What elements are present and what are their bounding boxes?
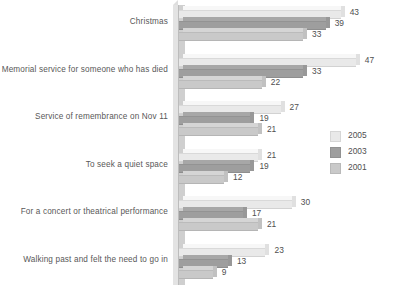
category-label: To seek a quiet space bbox=[0, 160, 168, 170]
legend-swatch-icon bbox=[330, 163, 341, 174]
legend-item[interactable]: 2005 bbox=[330, 128, 392, 144]
legend-item[interactable]: 2003 bbox=[330, 144, 392, 160]
bar-value-label: 13 bbox=[237, 256, 246, 267]
bar-value-label: 30 bbox=[301, 197, 310, 208]
bar bbox=[179, 28, 307, 37]
bar-end-cap bbox=[213, 266, 217, 277]
bar-front-face bbox=[179, 175, 224, 184]
bar bbox=[179, 244, 269, 253]
legend-label: 2003 bbox=[348, 144, 367, 159]
bar-end-cap bbox=[303, 28, 307, 39]
bar bbox=[179, 207, 247, 216]
bar-end-cap bbox=[303, 65, 307, 76]
bar-end-cap bbox=[228, 255, 232, 266]
bar bbox=[179, 6, 345, 15]
bar-front-face bbox=[179, 80, 262, 89]
bar-front-face bbox=[179, 222, 258, 231]
legend-swatch-icon bbox=[330, 147, 341, 158]
bar bbox=[179, 54, 360, 63]
category-label: For a concert or theatrical performance bbox=[0, 207, 168, 217]
bar-end-cap bbox=[281, 101, 285, 112]
bar-chart: ChristmasMemorial service for someone wh… bbox=[0, 0, 395, 291]
bar bbox=[179, 76, 266, 85]
bar bbox=[179, 123, 262, 132]
bar-value-label: 33 bbox=[312, 29, 321, 40]
bar bbox=[179, 171, 228, 180]
legend-item[interactable]: 2001 bbox=[330, 160, 392, 176]
bar-end-cap bbox=[292, 196, 296, 207]
bar-value-label: 21 bbox=[267, 150, 276, 161]
bar-value-label: 21 bbox=[267, 219, 276, 230]
bar-end-cap bbox=[258, 149, 262, 160]
category-label: Walking past and felt the need to go in bbox=[0, 255, 168, 265]
legend: 200520032001 bbox=[330, 128, 392, 176]
bar-end-cap bbox=[326, 17, 330, 28]
bar bbox=[179, 17, 330, 26]
bar-end-cap bbox=[250, 160, 254, 171]
bar-end-cap bbox=[243, 207, 247, 218]
bar-value-label: 23 bbox=[274, 245, 283, 256]
bar-end-cap bbox=[262, 76, 266, 87]
bar-value-label: 19 bbox=[259, 161, 268, 172]
bar-front-face bbox=[179, 32, 303, 41]
bar bbox=[179, 160, 254, 169]
bar-end-cap bbox=[258, 123, 262, 134]
axis-wall-foot bbox=[173, 279, 178, 285]
bar-front-face bbox=[179, 270, 213, 279]
bar-end-cap bbox=[341, 6, 345, 17]
bar-front-face bbox=[179, 127, 258, 136]
bar bbox=[179, 196, 296, 205]
bar-value-label: 47 bbox=[365, 55, 374, 66]
bar-end-cap bbox=[224, 171, 228, 182]
bar-value-label: 12 bbox=[233, 172, 242, 183]
bar-end-cap bbox=[356, 54, 360, 65]
bar bbox=[179, 255, 232, 264]
bar bbox=[179, 112, 254, 121]
bar bbox=[179, 266, 217, 275]
bar-value-label: 27 bbox=[290, 102, 299, 113]
legend-label: 2005 bbox=[348, 128, 367, 143]
bar bbox=[179, 218, 262, 227]
bar-end-cap bbox=[265, 244, 269, 255]
bar-value-label: 43 bbox=[350, 7, 359, 18]
bar-end-cap bbox=[258, 218, 262, 229]
bar-value-label: 39 bbox=[335, 18, 344, 29]
legend-swatch-icon bbox=[330, 131, 341, 142]
category-label: Christmas bbox=[0, 17, 168, 27]
category-label: Service of remembrance on Nov 11 bbox=[0, 112, 168, 122]
bar-value-label: 22 bbox=[271, 77, 280, 88]
bar bbox=[179, 101, 285, 110]
bar bbox=[179, 65, 307, 74]
legend-label: 2001 bbox=[348, 160, 367, 175]
bar-value-label: 9 bbox=[222, 267, 227, 278]
bar-value-label: 33 bbox=[312, 66, 321, 77]
category-axis-labels: ChristmasMemorial service for someone wh… bbox=[0, 0, 172, 291]
category-label: Memorial service for someone who has die… bbox=[0, 65, 168, 75]
bar bbox=[179, 149, 262, 158]
bar-value-label: 21 bbox=[267, 124, 276, 135]
bar-end-cap bbox=[250, 112, 254, 123]
